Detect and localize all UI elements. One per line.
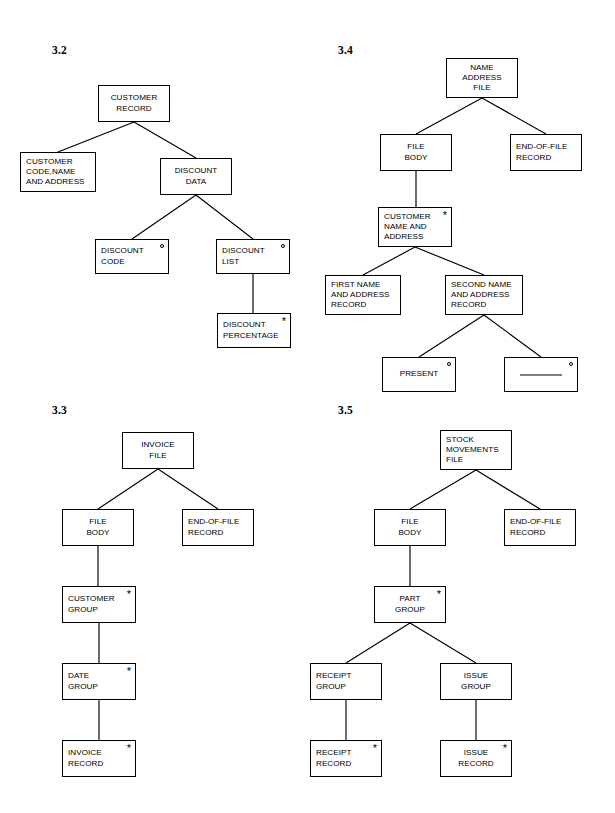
node-n34-eof[interactable]: END-OF-FILE RECORD (510, 134, 582, 171)
node-n33-inv[interactable]: INVOICE RECORD* (62, 740, 136, 777)
iteration-marker-icon: * (127, 667, 131, 676)
node-label: END-OF-FILE RECORD (510, 517, 572, 537)
connector-n33-root-to-n33-body (98, 469, 158, 509)
node-n34-second[interactable]: SECOND NAME AND ADDRESS RECORD (445, 275, 523, 315)
connector-n32-discdata-to-n32-disclist (196, 195, 253, 239)
node-label: NAME ADDRESS FILE (462, 63, 501, 94)
node-label: DISCOUNT LIST (222, 246, 286, 266)
node-label: RECEIPT GROUP (316, 671, 378, 691)
node-label: CUSTOMER GROUP (68, 594, 132, 614)
node-n35-issue[interactable]: ISSUE GROUP (440, 663, 512, 700)
connector-n32-root-to-n32-discdata (134, 122, 196, 158)
null-rule-line (520, 374, 562, 375)
connector-n34-second-to-n34-present (419, 315, 484, 357)
node-label: END-OF-FILE RECORD (188, 517, 250, 537)
node-n34-first[interactable]: FIRST NAME AND ADDRESS RECORD (325, 275, 401, 315)
connector-n34-root-to-n34-eof (482, 98, 546, 134)
node-n33-root[interactable]: INVOICE FILE (122, 432, 194, 469)
iteration-marker-icon: * (127, 590, 131, 599)
node-label: DATE GROUP (68, 671, 132, 691)
node-label: SECOND NAME AND ADDRESS RECORD (451, 280, 519, 311)
node-label: CUSTOMER RECORD (111, 93, 158, 113)
connector-n35-part-to-n35-receipt (346, 623, 410, 663)
iteration-marker-icon: * (127, 744, 131, 753)
iteration-marker-icon: * (503, 744, 507, 753)
node-n33-date[interactable]: DATE GROUP* (62, 663, 136, 700)
node-label: PART GROUP (395, 594, 425, 614)
figure-number-3-2: 3.2 (52, 44, 67, 56)
node-label: FILE BODY (86, 517, 109, 537)
node-n35-body[interactable]: FILE BODY (374, 509, 446, 546)
node-label: END-OF-FILE RECORD (516, 142, 578, 162)
node-n35-root[interactable]: STOCK MOVEMENTS FILE (440, 430, 512, 470)
connector-n33-root-to-n33-eof (158, 469, 218, 509)
iteration-marker-icon: * (282, 317, 286, 326)
node-n32-custcode[interactable]: CUSTOMER CODE,NAME AND ADDRESS (20, 152, 96, 192)
node-n32-disccode[interactable]: DISCOUNT CODE (95, 239, 169, 274)
node-label: PRESENT (400, 369, 439, 379)
node-n34-present[interactable]: PRESENT (382, 357, 456, 392)
node-n33-cust[interactable]: CUSTOMER GROUP* (62, 586, 136, 623)
connector-n35-part-to-n35-issue (410, 623, 476, 663)
connector-n34-custname-to-n34-first (363, 247, 415, 275)
node-n32-discdata[interactable]: DISCOUNT DATA (160, 158, 232, 195)
node-n32-root[interactable]: CUSTOMER RECORD (98, 85, 170, 122)
node-label: CUSTOMER NAME AND ADDRESS (384, 212, 448, 243)
node-n35-eof[interactable]: END-OF-FILE RECORD (504, 509, 576, 546)
node-n32-disclist[interactable]: DISCOUNT LIST (216, 239, 290, 274)
connector-n34-second-to-n34-null (484, 315, 541, 357)
selection-marker-icon (447, 362, 451, 366)
node-n35-recrec[interactable]: RECEIPT RECORD* (310, 740, 382, 777)
iteration-marker-icon: * (443, 211, 447, 220)
node-n32-discpct[interactable]: DISCOUNT PERCENTAGE* (217, 313, 291, 348)
connector-n35-root-to-n35-body (410, 470, 476, 509)
node-n34-null[interactable] (504, 357, 578, 392)
node-label: DISCOUNT DATA (175, 166, 218, 186)
node-label: ISSUE RECORD (458, 748, 493, 768)
node-label: FILE BODY (398, 517, 421, 537)
node-label: RECEIPT RECORD (316, 748, 378, 768)
node-label: INVOICE FILE (141, 440, 175, 460)
connector-n35-root-to-n35-eof (476, 470, 540, 509)
node-n35-part[interactable]: PART GROUP* (374, 586, 446, 623)
node-label: DISCOUNT PERCENTAGE (223, 320, 287, 340)
connector-n34-custname-to-n34-second (415, 247, 484, 275)
node-label: STOCK MOVEMENTS FILE (446, 435, 508, 466)
node-n34-body[interactable]: FILE BODY (380, 134, 452, 171)
node-label: CUSTOMER CODE,NAME AND ADDRESS (26, 157, 92, 188)
figure-number-3-4: 3.4 (338, 44, 353, 56)
node-label: INVOICE RECORD (68, 748, 132, 768)
node-n33-body[interactable]: FILE BODY (62, 509, 134, 546)
node-n35-receipt[interactable]: RECEIPT GROUP (310, 663, 382, 700)
connector-n32-root-to-n32-custcode (58, 122, 134, 152)
connector-n34-root-to-n34-body (416, 98, 482, 134)
node-n34-custname[interactable]: CUSTOMER NAME AND ADDRESS* (378, 207, 452, 247)
iteration-marker-icon: * (437, 590, 441, 599)
selection-marker-icon (281, 244, 285, 248)
node-label: FIRST NAME AND ADDRESS RECORD (331, 280, 397, 311)
selection-marker-icon (569, 362, 573, 366)
node-n33-eof[interactable]: END-OF-FILE RECORD (182, 509, 254, 546)
node-label: ISSUE GROUP (461, 671, 491, 691)
node-n34-root[interactable]: NAME ADDRESS FILE (446, 58, 518, 98)
figure-number-3-5: 3.5 (338, 404, 353, 416)
node-n35-issrec[interactable]: ISSUE RECORD* (440, 740, 512, 777)
connector-n32-discdata-to-n32-disccode (132, 195, 196, 239)
selection-marker-icon (160, 244, 164, 248)
node-label: FILE BODY (404, 142, 427, 162)
figure-number-3-3: 3.3 (52, 404, 67, 416)
iteration-marker-icon: * (373, 744, 377, 753)
node-label: DISCOUNT CODE (101, 246, 165, 266)
